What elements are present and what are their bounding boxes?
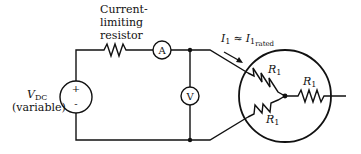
resistor-label-line1: Current- [100,3,148,16]
current-limiting-resistor [100,44,153,56]
wire-left-bottom [76,113,248,140]
source-minus: - [74,98,77,109]
resistor-label-line3: resistor [100,29,144,42]
r1-upper-label: R1 [267,63,281,77]
junction-node [188,138,192,142]
resistor-r1-right [285,90,346,102]
r1-right-label: R1 [302,75,316,89]
r1-lower-label: R1 [265,113,279,127]
ammeter-symbol: A [157,45,166,56]
source-variable-label: (variable) [12,101,66,114]
wire-left-top [76,50,100,81]
circuit-diagram: Current- limiting resistor A V + - VDC (… [0,0,361,154]
source-label: VDC [27,88,48,102]
star-node [283,94,288,99]
resistor-label-line2: limiting [100,16,143,29]
voltmeter-symbol: V [185,91,194,102]
current-label: I1≈I1rated [220,32,275,48]
junction-node [188,48,192,52]
source-plus: + [72,83,80,94]
